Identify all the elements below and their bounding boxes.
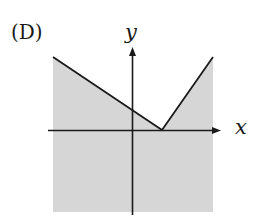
y-axis-arrow-icon [129, 47, 136, 56]
option-label: (D) [11, 22, 43, 42]
x-axis-label: x [235, 117, 247, 138]
y-axis-label: y [125, 22, 137, 43]
x-axis-arrow-icon [212, 127, 221, 134]
